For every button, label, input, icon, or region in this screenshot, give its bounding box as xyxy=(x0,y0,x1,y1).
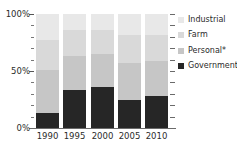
bar-segment xyxy=(63,90,86,128)
bar-segment xyxy=(63,30,86,56)
bar-column[interactable] xyxy=(118,14,141,128)
bar-segment xyxy=(118,14,141,35)
right-axis-tick xyxy=(170,60,175,61)
bar-segment xyxy=(91,14,114,30)
bar-column[interactable] xyxy=(145,14,168,128)
right-axis-tick xyxy=(170,117,175,118)
chart-title-sliver xyxy=(60,0,180,4)
legend-item[interactable]: Personal* xyxy=(178,43,237,59)
y-axis-labels: 0%50%100% xyxy=(0,0,30,151)
bar-segment xyxy=(91,87,114,128)
right-axis-tick xyxy=(170,71,175,72)
right-axis-tick xyxy=(170,37,175,38)
bar-column[interactable] xyxy=(63,14,86,128)
right-axis-tick xyxy=(170,48,175,49)
bar-segment xyxy=(63,14,86,30)
bar-segment xyxy=(118,100,141,129)
legend-label: Industrial xyxy=(188,16,226,24)
right-axis-tick xyxy=(170,14,175,15)
legend-item[interactable]: Government xyxy=(178,59,237,75)
legend-swatch xyxy=(178,17,184,23)
right-axis-tick xyxy=(170,94,175,95)
bar-segment xyxy=(118,35,141,64)
bar-column[interactable] xyxy=(36,14,59,128)
y-axis-tick-label: 50% xyxy=(11,67,30,76)
legend-swatch xyxy=(178,63,184,69)
bar-segment xyxy=(145,14,168,35)
bar-column[interactable] xyxy=(91,14,114,128)
bar-segment xyxy=(36,40,59,70)
bar-segment xyxy=(145,96,168,128)
bar-segment xyxy=(118,63,141,99)
y-axis-tick-label: 0% xyxy=(17,124,31,133)
plot-area xyxy=(34,14,170,128)
legend-label: Government xyxy=(188,62,237,70)
bar-segment xyxy=(36,14,59,40)
legend-swatch xyxy=(178,48,184,54)
bar-segment xyxy=(63,56,86,90)
bar-segment xyxy=(145,35,168,61)
x-axis-tick-label: 2010 xyxy=(140,131,174,141)
legend-label: Personal* xyxy=(188,47,226,55)
y-axis-tick-label: 100% xyxy=(6,10,30,19)
bar-segment xyxy=(91,30,114,54)
legend-label: Farm xyxy=(188,31,208,39)
right-axis-tick xyxy=(170,82,175,83)
bar-segment xyxy=(91,54,114,87)
legend-item[interactable]: Farm xyxy=(178,28,237,44)
bar-segment xyxy=(36,70,59,113)
bar-segment xyxy=(145,61,168,96)
chart-legend: IndustrialFarmPersonal*Government xyxy=(178,12,237,74)
right-axis-tick xyxy=(170,105,175,106)
legend-item[interactable]: Industrial xyxy=(178,12,237,28)
x-axis-line xyxy=(30,128,176,129)
legend-swatch xyxy=(178,32,184,38)
right-axis-tick xyxy=(170,25,175,26)
bar-segment xyxy=(36,113,59,128)
stacked-bar-chart: 0%50%100% IndustrialFarmPersonal*Governm… xyxy=(0,0,237,151)
